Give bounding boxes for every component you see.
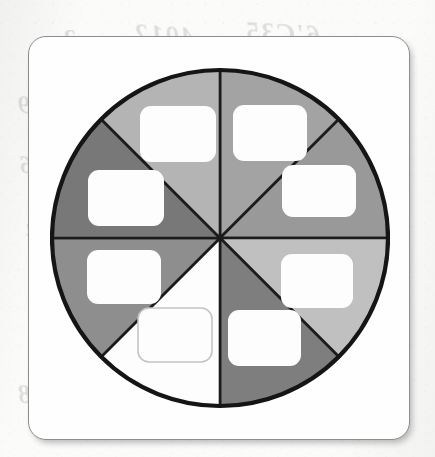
wheel-svg — [50, 58, 390, 418]
sector-e-se-label-box[interactable] — [281, 254, 353, 308]
sector-n-nw-label-box[interactable] — [140, 106, 216, 162]
sector-e-ne-label-box[interactable] — [282, 165, 356, 217]
fraction-wheel-worksheet-card — [28, 36, 410, 440]
sector-w-sw-label-box[interactable] — [87, 250, 161, 304]
sector-s-sw-label-box[interactable] — [138, 308, 212, 362]
sector-s-se-label-box[interactable] — [228, 310, 301, 366]
fraction-wheel — [50, 58, 390, 418]
sector-w-nw-label-box[interactable] — [88, 170, 164, 226]
sector-n-ne-label-box[interactable] — [233, 105, 307, 161]
scanned-page: 6'C35401232a6429567031693804542189 50866… — [0, 0, 435, 457]
